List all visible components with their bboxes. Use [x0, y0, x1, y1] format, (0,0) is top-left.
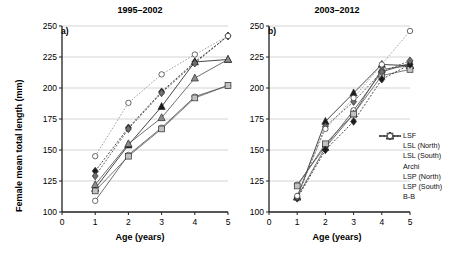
legend-label: LSP (North): [402, 172, 441, 182]
legend-label: Archi: [402, 162, 419, 172]
figure-root: Female mean total length (mm) 1995–2002 …: [0, 0, 460, 256]
plot-canvas: [0, 0, 460, 256]
series-archi: [92, 83, 231, 194]
legend: LSFLSL (North)LSL (South)ArchiLSP (North…: [378, 131, 442, 202]
legend-item-lsp-south[interactable]: LSP (South): [378, 182, 442, 192]
legend-marker-filled-diamond-icon: [378, 172, 402, 182]
legend-item-lsl-south[interactable]: LSL (South): [378, 151, 442, 161]
legend-marker-gray-triangle-icon: [378, 151, 402, 161]
legend-item-archi[interactable]: Archi: [378, 162, 442, 172]
legend-label: LSL (North): [402, 141, 440, 151]
legend-label: LSF: [402, 131, 416, 141]
legend-marker-filled-triangle-icon: [378, 141, 402, 151]
legend-marker-gray-square-icon: [378, 162, 402, 172]
legend-marker-gray-diamond-icon: [378, 182, 402, 192]
legend-item-lsp-north[interactable]: LSP (North): [378, 172, 442, 182]
series-lsf: [93, 83, 231, 204]
legend-item-lsl-north[interactable]: LSL (North): [378, 141, 442, 151]
legend-label: LSL (South): [402, 151, 441, 161]
legend-marker-open-circle-icon: [378, 192, 402, 202]
legend-label: LSP (South): [402, 182, 442, 192]
legend-item-b-b[interactable]: B-B: [378, 192, 442, 202]
legend-label: B-B: [402, 192, 415, 202]
